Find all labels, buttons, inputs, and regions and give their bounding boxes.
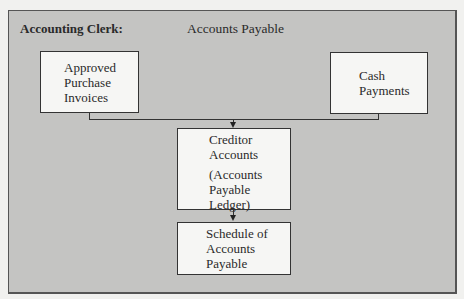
node-text-line: Purchase [64, 75, 116, 90]
node-approved-purchase-invoices: Approved Purchase Invoices [40, 51, 139, 113]
diagram-title: Accounts Payable [187, 21, 284, 37]
node-text-line: Schedule of [206, 226, 268, 241]
node-text-line: (Accounts [209, 167, 262, 182]
role-label: Accounting Clerk: [20, 21, 123, 37]
node-text-line: Invoices [64, 90, 116, 105]
node-text-line: Creditor [209, 132, 262, 147]
node-schedule-of-accounts-payable: Schedule of Accounts Payable [177, 222, 291, 275]
node-creditor-accounts: Creditor Accounts (Accounts Payable Ledg… [177, 128, 291, 210]
node-text-line: Cash [359, 68, 410, 83]
node-text-line: Accounts [206, 241, 268, 256]
node-cash-payments: Cash Payments [330, 52, 428, 114]
connector-horizontal [89, 119, 379, 120]
node-text-line: Payable [206, 256, 268, 271]
node-text-line: Payments [359, 83, 410, 98]
node-text-line: Accounts [209, 147, 262, 162]
node-text-line: Payable [209, 182, 262, 197]
node-text-line: Approved [64, 60, 116, 75]
arrow-down-icon [230, 215, 236, 221]
node-text-line: Ledger) [209, 197, 262, 212]
